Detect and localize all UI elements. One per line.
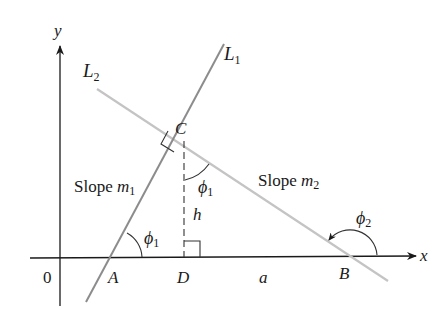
point-label-C: C [175,119,187,138]
angle-label-phi1-A: ϕ1 [144,228,159,250]
label-L1: L1 [223,43,241,67]
y-axis-label: y [52,21,62,40]
x-axis-label: x [419,246,428,265]
point-label-A: A [107,268,119,287]
label-L2: L2 [82,60,100,84]
slope-label-m2: Slope m2 [258,171,319,192]
angle-arc-phi2-B [329,230,377,255]
line-L2 [97,89,388,281]
right-angle-mark-D [184,241,200,257]
height-label-h: h [193,205,202,224]
angle-label-phi2-B: ϕ2 [356,208,371,230]
diagram-canvas: y x 0 L2 L1 C A D B Slope m1 Slope m2 h … [0,0,448,323]
origin-label: 0 [43,268,52,287]
slope-label-m1: Slope m1 [74,177,135,198]
point-label-B: B [339,264,350,283]
angle-arc-phi1-A [127,233,142,257]
x-axis [30,256,416,258]
line-L1 [86,44,224,302]
distance-label-a: a [259,268,268,287]
angle-label-phi1-C: ϕ1 [198,177,213,199]
point-label-D: D [176,268,190,287]
